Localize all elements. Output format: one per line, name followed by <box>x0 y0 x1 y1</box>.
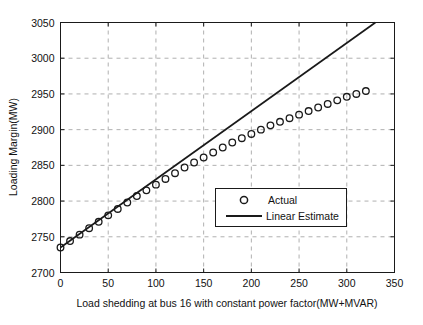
legend-label-actual: Actual <box>268 194 297 206</box>
x-tick-label: 250 <box>290 277 308 289</box>
data-point-marker <box>277 118 284 125</box>
data-point-marker <box>181 164 188 171</box>
x-tick-label: 300 <box>338 277 356 289</box>
y-tick-label: 3050 <box>31 17 55 29</box>
y-tick-label: 3000 <box>31 52 55 64</box>
y-tick-label: 2700 <box>31 267 55 279</box>
grid-lines <box>61 23 395 273</box>
y-tick-label: 2950 <box>31 88 55 100</box>
y-axis-title: Loading Margin(MW) <box>7 98 19 196</box>
figure-canvas: 050100150200250300350 270027502800285029… <box>0 0 423 325</box>
chart-svg: 050100150200250300350 270027502800285029… <box>0 0 423 325</box>
data-point-marker <box>305 108 312 115</box>
y-tick-label: 2900 <box>31 124 55 136</box>
data-point-marker <box>210 149 217 156</box>
data-point-marker <box>324 101 331 108</box>
x-tick-label: 350 <box>386 277 404 289</box>
plot-frame <box>61 23 395 273</box>
data-point-marker <box>334 97 341 104</box>
x-axis-title: Load shedding at bus 16 with constant po… <box>76 297 377 309</box>
data-point-marker <box>229 139 236 146</box>
data-point-marker <box>172 170 179 177</box>
legend-label-linear-estimate: Linear Estimate <box>266 210 339 222</box>
x-tick-label: 100 <box>147 277 165 289</box>
x-tick-label: 200 <box>243 277 261 289</box>
data-point-marker <box>162 176 169 183</box>
x-tick-label: 0 <box>58 277 64 289</box>
data-point-marker <box>267 122 274 129</box>
data-point-marker <box>286 115 293 122</box>
y-axis-tick-labels: 27002750280028502900295030003050 <box>31 17 55 279</box>
data-point-marker <box>363 88 370 95</box>
y-tick-label: 2800 <box>31 195 55 207</box>
y-tick-label: 2750 <box>31 231 55 243</box>
y-tick-label: 2850 <box>31 159 55 171</box>
x-tick-label: 50 <box>102 277 114 289</box>
x-tick-label: 150 <box>195 277 213 289</box>
data-point-marker <box>239 135 246 142</box>
data-point-marker <box>143 187 150 194</box>
data-point-marker <box>191 159 198 166</box>
data-point-marker <box>219 144 226 151</box>
x-axis-tick-labels: 050100150200250300350 <box>58 277 404 289</box>
data-point-marker <box>315 104 322 111</box>
legend[interactable]: Actual Linear Estimate <box>216 189 347 227</box>
tick-marks <box>61 23 395 273</box>
